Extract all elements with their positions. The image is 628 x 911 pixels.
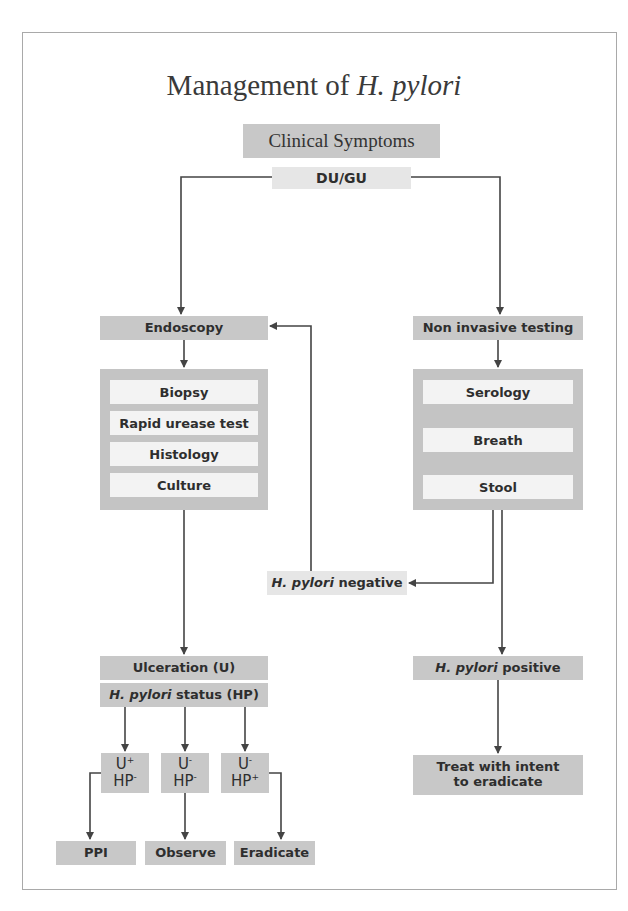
diagram-title: Management of H. pylori	[0, 69, 628, 102]
hp-sign: +	[251, 772, 259, 782]
treat-box: Treat with intent to eradicate	[413, 755, 583, 795]
outcome-observe: Observe	[145, 841, 226, 865]
noninvasive-tests-group: Serology Breath Stool	[413, 369, 583, 510]
test-breath: Breath	[423, 428, 573, 452]
title-text: Management of	[167, 69, 357, 101]
ulceration-label: Ulceration (U)	[133, 661, 236, 676]
hp-positive-box: H. pylori positive	[413, 656, 583, 680]
test-stool: Stool	[423, 475, 573, 499]
combo-u-neg-hp-neg: U-HP-	[161, 753, 209, 793]
outcome-label: Observe	[155, 846, 216, 861]
test-label: Stool	[479, 480, 517, 495]
test-culture: Culture	[110, 473, 258, 497]
test-biopsy: Biopsy	[110, 380, 258, 404]
test-label: Biopsy	[160, 385, 209, 400]
combo-u-neg-hp-pos: U-HP+	[221, 753, 269, 793]
outcome-eradicate: Eradicate	[234, 841, 315, 865]
combo-u-pos-hp-neg: U+HP-	[101, 753, 149, 793]
hp-status-box: H. pylori status (HP)	[100, 683, 268, 707]
non-invasive-testing-label: Non invasive testing	[423, 321, 574, 336]
test-label: Culture	[157, 478, 211, 493]
treat-label: Treat with intent to eradicate	[433, 760, 563, 790]
non-invasive-testing-box: Non invasive testing	[413, 316, 583, 340]
hp-positive-italic: H. pylori	[435, 661, 497, 676]
hp-label: HP	[173, 772, 193, 790]
clinical-symptoms-label: Clinical Symptoms	[268, 130, 414, 152]
u-sign: -	[249, 755, 252, 765]
hp-status-italic: H. pylori	[109, 688, 171, 703]
hp-sign: -	[134, 772, 137, 782]
title-italic: H. pylori	[357, 69, 462, 101]
du-gu-label: DU/GU	[316, 170, 367, 186]
hp-negative-italic: H. pylori	[271, 576, 333, 591]
test-label: Rapid urease test	[119, 416, 249, 431]
hp-status-rest: status (HP)	[172, 688, 259, 703]
ulceration-box: Ulceration (U)	[100, 656, 268, 680]
endoscopy-box: Endoscopy	[100, 316, 268, 340]
test-label: Histology	[149, 447, 218, 462]
endoscopy-tests-group: Biopsy Rapid urease test Histology Cultu…	[100, 369, 268, 510]
endoscopy-label: Endoscopy	[145, 321, 224, 336]
u-sign: -	[189, 755, 192, 765]
u-label: U	[238, 755, 249, 773]
hp-label: HP	[113, 772, 133, 790]
outcome-ppi: PPI	[56, 841, 136, 865]
test-histology: Histology	[110, 442, 258, 466]
u-sign: +	[127, 755, 135, 765]
test-serology: Serology	[423, 380, 573, 404]
test-label: Breath	[473, 433, 522, 448]
outcome-label: Eradicate	[240, 846, 309, 861]
hp-negative-box: H. pylori negative	[267, 571, 407, 595]
du-gu-box: DU/GU	[272, 167, 411, 189]
hp-positive-rest: positive	[498, 661, 561, 676]
clinical-symptoms-box: Clinical Symptoms	[243, 124, 440, 158]
test-rapid-urease: Rapid urease test	[110, 411, 258, 435]
u-label: U	[116, 755, 127, 773]
hp-negative-rest: negative	[334, 576, 403, 591]
hp-label: HP	[231, 772, 251, 790]
hp-sign: -	[194, 772, 197, 782]
outcome-label: PPI	[84, 846, 108, 861]
test-label: Serology	[466, 385, 531, 400]
u-label: U	[178, 755, 189, 773]
